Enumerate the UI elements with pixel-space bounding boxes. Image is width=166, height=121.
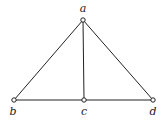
node-a — [81, 18, 85, 22]
node-b — [12, 98, 16, 102]
node-d — [151, 98, 155, 102]
edges — [14, 20, 153, 100]
node-c — [82, 98, 86, 102]
label-b: b — [9, 105, 16, 118]
label-d: d — [149, 105, 156, 118]
label-c: c — [81, 105, 87, 118]
edge-a-b — [14, 20, 83, 100]
edge-a-c — [83, 20, 84, 100]
label-a: a — [80, 2, 87, 15]
graph-diagram: a b c d — [0, 0, 166, 121]
edge-a-d — [83, 20, 153, 100]
